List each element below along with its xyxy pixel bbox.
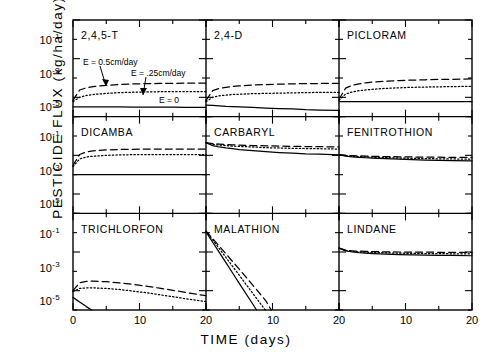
curve-2-4-5-t-solid <box>73 107 206 108</box>
curve-malathion-dashed <box>206 231 271 310</box>
curve-dicamba-dotted <box>73 155 206 167</box>
curve-2-4-d-dotted <box>206 92 339 101</box>
curve-carbaryl-dashed <box>206 143 339 147</box>
curve-picloram-dotted <box>339 86 472 100</box>
panel-title-trichlorfon: TRICHLORFON <box>81 223 163 235</box>
panel-title-lindane: LINDANE <box>347 223 397 235</box>
annotation-e-high: E = 0.5cm/day <box>83 57 138 67</box>
curve-trichlorfon-solid <box>73 297 92 310</box>
curve-lindane-dashed <box>339 248 472 252</box>
curve-2-4-5-t-dotted <box>73 92 206 102</box>
y-tick-label: 10-5 <box>18 196 60 210</box>
y-tick-label: 10-3 <box>18 163 60 177</box>
x-tick-label: 20 <box>193 314 219 326</box>
annotation-e-mid: E = .25cm/day <box>131 68 186 78</box>
panel-title-2-4-5-t: 2,4,5-T <box>81 29 118 41</box>
x-tick-label: 0 <box>60 314 86 326</box>
y-tick-label: 10-1 <box>18 226 60 240</box>
x-tick-label: 10 <box>260 314 286 326</box>
x-axis-label: TIME (days) <box>0 332 492 347</box>
curve-2-4-d-solid <box>206 105 339 110</box>
panel-title-carbaryl: CARBARYL <box>214 126 275 138</box>
panel-title-fenitrothion: FENITROTHION <box>347 126 433 138</box>
annotation-e-zero: E = 0 <box>159 95 179 105</box>
curve-dicamba-dashed <box>73 149 206 165</box>
y-tick-label: 10-3 <box>18 260 60 274</box>
x-tick-label: 20 <box>326 314 352 326</box>
panel-title-picloram: PICLORAM <box>347 29 407 41</box>
y-tick-label: 10-1 <box>18 32 60 46</box>
x-tick-label: 10 <box>393 314 419 326</box>
curve-picloram-dashed <box>339 79 472 99</box>
y-tick-label: 10-1 <box>18 129 60 143</box>
x-tick-label: 20 <box>459 314 485 326</box>
plot-svg <box>0 0 492 357</box>
y-tick-label: 10-5 <box>18 99 60 113</box>
curve-malathion-dotted <box>206 231 265 310</box>
panel-title-2-4-d: 2,4-D <box>214 29 243 41</box>
y-tick-label: 10-5 <box>18 293 60 307</box>
y-tick-label: 10-3 <box>18 66 60 80</box>
curve-trichlorfon-dotted <box>73 288 206 302</box>
panel-title-dicamba: DICAMBA <box>81 126 133 138</box>
curve-malathion-solid <box>206 232 257 310</box>
panel-title-malathion: MALATHION <box>214 223 280 235</box>
curve-trichlorfon-dashed <box>73 281 206 296</box>
x-tick-label: 10 <box>127 314 153 326</box>
curve-2-4-d-dashed <box>206 83 339 100</box>
figure-container: PESTICIDE FLUX (kg/ha/day) TIME (days) 1… <box>0 0 492 357</box>
